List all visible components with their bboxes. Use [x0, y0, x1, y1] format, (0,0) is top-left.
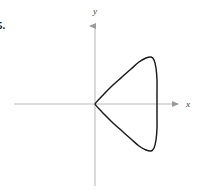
figure-container: 5. x y	[0, 0, 200, 193]
x-axis-label: x	[185, 99, 190, 109]
y-axis-label: y	[92, 6, 97, 16]
polar-curve-plot: x y	[0, 0, 200, 193]
